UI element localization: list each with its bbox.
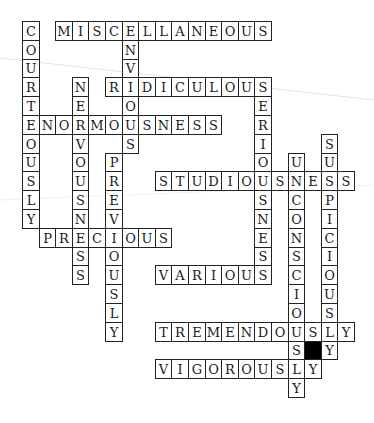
grid-cell[interactable]: O bbox=[238, 359, 255, 379]
grid-cell[interactable]: S bbox=[254, 190, 272, 210]
grid-cell[interactable]: S bbox=[321, 134, 338, 154]
grid-cell[interactable]: U bbox=[321, 153, 338, 172]
grid-cell[interactable]: T bbox=[171, 171, 189, 191]
grid-cell[interactable]: P bbox=[39, 228, 56, 248]
grid-cell[interactable]: O bbox=[254, 153, 272, 172]
grid-cell[interactable]: L bbox=[288, 359, 305, 379]
grid-cell[interactable]: S bbox=[254, 247, 272, 266]
grid-cell[interactable]: O bbox=[288, 303, 305, 323]
grid-cell[interactable]: R bbox=[221, 359, 239, 379]
grid-cell[interactable]: N bbox=[288, 171, 305, 191]
grid-cell[interactable]: A bbox=[171, 265, 189, 285]
grid-cell[interactable]: I bbox=[122, 77, 139, 97]
grid-cell[interactable]: D bbox=[138, 77, 156, 97]
grid-cell[interactable]: V bbox=[155, 359, 172, 379]
grid-cell[interactable]: Y bbox=[304, 359, 322, 379]
grid-cell[interactable]: S bbox=[122, 134, 139, 154]
grid-cell[interactable]: U bbox=[188, 171, 206, 191]
grid-cell[interactable]: R bbox=[188, 265, 206, 285]
grid-cell[interactable]: S bbox=[105, 284, 123, 304]
grid-cell[interactable]: D bbox=[254, 322, 272, 342]
grid-cell[interactable]: R bbox=[22, 77, 40, 97]
grid-cell[interactable]: I bbox=[155, 77, 172, 97]
grid-cell[interactable]: U bbox=[122, 115, 139, 135]
grid-cell[interactable]: I bbox=[221, 171, 239, 191]
grid-cell[interactable]: L bbox=[138, 21, 156, 41]
grid-cell[interactable]: U bbox=[138, 228, 156, 248]
grid-cell[interactable]: S bbox=[254, 265, 272, 285]
grid-cell[interactable]: U bbox=[188, 77, 206, 97]
grid-cell[interactable]: U bbox=[238, 21, 255, 41]
grid-cell[interactable]: R bbox=[254, 115, 272, 135]
grid-cell[interactable]: O bbox=[321, 265, 338, 285]
grid-cell[interactable]: L bbox=[321, 322, 338, 342]
grid-cell[interactable]: C bbox=[321, 228, 338, 248]
grid-cell[interactable]: O bbox=[122, 96, 139, 116]
grid-cell[interactable]: C bbox=[288, 265, 305, 285]
grid-cell[interactable]: C bbox=[288, 190, 305, 210]
grid-cell[interactable]: O bbox=[22, 134, 40, 154]
grid-cell[interactable]: O bbox=[55, 115, 73, 135]
grid-cell[interactable]: S bbox=[22, 171, 40, 191]
grid-cell[interactable]: O bbox=[105, 115, 123, 135]
grid-cell[interactable]: V bbox=[72, 134, 89, 154]
grid-cell[interactable]: R bbox=[72, 115, 89, 135]
grid-cell[interactable]: O bbox=[221, 77, 239, 97]
grid-cell[interactable]: E bbox=[254, 228, 272, 248]
grid-cell[interactable]: U bbox=[238, 77, 255, 97]
grid-cell[interactable]: P bbox=[321, 190, 338, 210]
grid-cell[interactable]: E bbox=[221, 322, 239, 342]
grid-cell[interactable]: S bbox=[271, 171, 289, 191]
grid-cell[interactable]: N bbox=[188, 21, 206, 41]
grid-cell[interactable]: S bbox=[254, 21, 272, 41]
grid-cell[interactable]: O bbox=[72, 153, 89, 172]
grid-cell[interactable]: Y bbox=[321, 341, 338, 360]
grid-cell[interactable]: E bbox=[205, 21, 222, 41]
grid-cell[interactable]: C bbox=[171, 77, 189, 97]
grid-cell[interactable]: E bbox=[304, 171, 322, 191]
grid-cell[interactable]: O bbox=[205, 359, 222, 379]
grid-cell[interactable]: U bbox=[321, 284, 338, 304]
grid-cell[interactable]: N bbox=[39, 115, 56, 135]
grid-cell[interactable]: S bbox=[155, 171, 172, 191]
grid-cell[interactable]: C bbox=[105, 21, 123, 41]
grid-cell[interactable]: Y bbox=[337, 322, 355, 342]
grid-cell[interactable]: E bbox=[72, 228, 89, 248]
grid-cell[interactable]: U bbox=[288, 322, 305, 342]
grid-cell[interactable]: S bbox=[321, 303, 338, 323]
grid-cell[interactable]: I bbox=[321, 247, 338, 266]
grid-cell[interactable]: S bbox=[188, 115, 206, 135]
grid-cell[interactable]: R bbox=[105, 77, 123, 97]
grid-cell[interactable]: S bbox=[72, 265, 89, 285]
grid-cell[interactable]: D bbox=[205, 171, 222, 191]
grid-cell[interactable]: N bbox=[72, 209, 89, 229]
grid-cell[interactable]: O bbox=[238, 171, 255, 191]
grid-cell[interactable]: V bbox=[122, 59, 139, 78]
grid-cell[interactable]: L bbox=[205, 77, 222, 97]
grid-cell[interactable]: U bbox=[72, 171, 89, 191]
grid-cell[interactable]: I bbox=[105, 228, 123, 248]
grid-cell[interactable]: O bbox=[221, 21, 239, 41]
grid-cell[interactable]: E bbox=[171, 115, 189, 135]
grid-cell[interactable]: Y bbox=[22, 209, 40, 229]
grid-cell[interactable]: S bbox=[72, 190, 89, 210]
grid-cell[interactable]: O bbox=[288, 209, 305, 229]
grid-cell[interactable]: C bbox=[22, 21, 40, 41]
grid-cell[interactable]: R bbox=[55, 228, 73, 248]
grid-cell[interactable]: U bbox=[288, 153, 305, 172]
grid-cell[interactable]: R bbox=[105, 171, 123, 191]
grid-cell[interactable]: L bbox=[155, 21, 172, 41]
grid-cell[interactable]: Y bbox=[288, 378, 305, 398]
grid-cell[interactable]: S bbox=[337, 171, 355, 191]
grid-cell[interactable]: Y bbox=[105, 322, 123, 342]
grid-cell[interactable]: V bbox=[155, 265, 172, 285]
grid-cell[interactable]: I bbox=[171, 359, 189, 379]
grid-cell[interactable]: T bbox=[22, 96, 40, 116]
grid-cell[interactable]: U bbox=[254, 359, 272, 379]
grid-cell[interactable]: I bbox=[72, 21, 89, 41]
grid-cell[interactable]: N bbox=[254, 209, 272, 229]
grid-cell[interactable]: T bbox=[155, 322, 172, 342]
grid-cell[interactable]: U bbox=[105, 265, 123, 285]
grid-cell[interactable]: S bbox=[271, 359, 289, 379]
grid-cell[interactable]: M bbox=[55, 21, 73, 41]
